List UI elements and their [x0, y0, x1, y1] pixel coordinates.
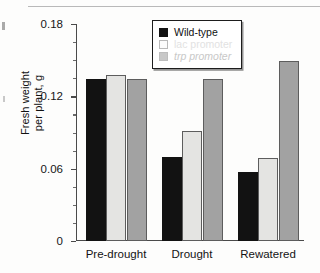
bar	[238, 172, 258, 241]
y-tick-minor	[73, 205, 77, 206]
y-tick-major: 0.18	[71, 24, 76, 25]
y-tick-minor	[73, 60, 77, 61]
bar	[86, 79, 106, 241]
figure-panel: Fresh weight per plant, g 00.060.120.18 …	[0, 0, 320, 273]
legend-item-trp-promoter: trp promoter	[159, 51, 232, 62]
y-axis-line	[76, 24, 77, 241]
legend-item-lac-promoter: lac promoter	[159, 39, 232, 50]
bar	[162, 157, 182, 241]
legend-label-wild-type: Wild-type	[174, 27, 218, 38]
scan-artifact-secondary	[3, 96, 5, 102]
y-tick-major: 0.12	[71, 96, 76, 97]
legend-label-trp-promoter: trp promoter	[174, 51, 231, 62]
y-axis-title-line1: Fresh weight	[19, 23, 32, 183]
legend-item-wild-type: Wild-type	[159, 27, 232, 38]
y-tick-minor	[73, 151, 77, 152]
bar-group	[238, 24, 299, 241]
bar-group	[86, 24, 147, 241]
bar	[203, 79, 223, 241]
page-rule	[28, 6, 320, 7]
legend-swatch-icon-trp-promoter	[159, 52, 168, 61]
y-tick-minor	[73, 42, 77, 43]
y-tick-label: 0.06	[41, 163, 63, 175]
bar	[106, 75, 126, 241]
legend-swatch-icon-wild-type	[159, 28, 168, 37]
y-tick-minor	[73, 187, 77, 188]
scan-artifact	[2, 22, 5, 30]
x-axis-category-label: Rewatered	[222, 248, 315, 260]
y-tick-minor	[73, 78, 77, 79]
bar	[182, 131, 202, 241]
legend-label-lac-promoter: lac promoter	[174, 39, 232, 50]
y-axis-title: Fresh weight per plant, g	[19, 23, 45, 183]
y-tick-minor	[73, 133, 77, 134]
bar	[279, 61, 299, 241]
y-tick-major: 0.06	[71, 169, 76, 170]
y-tick-minor	[73, 114, 77, 115]
y-axis-title-line2: per plant, g	[32, 23, 45, 183]
y-tick-label: 0	[57, 235, 63, 247]
y-tick-major: 0	[71, 241, 76, 242]
bar	[258, 158, 278, 241]
y-tick-label: 0.12	[41, 90, 63, 102]
y-tick-label: 0.18	[41, 18, 63, 30]
bar	[127, 79, 147, 241]
y-tick-minor	[73, 223, 77, 224]
chart-legend: Wild-type lac promoter trp promoter	[152, 20, 242, 69]
legend-swatch-icon-lac-promoter	[159, 40, 168, 49]
